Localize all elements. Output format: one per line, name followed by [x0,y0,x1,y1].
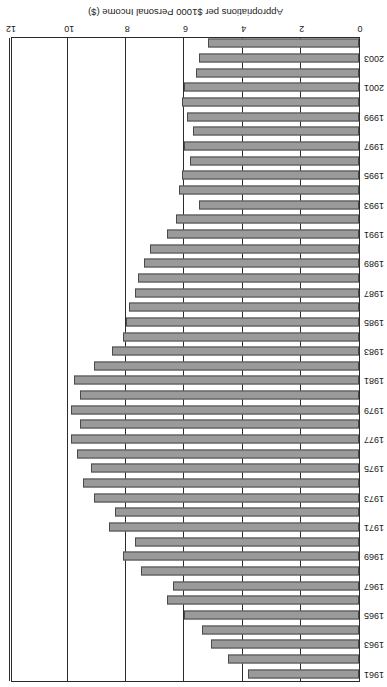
rotated-figure-container: 1961196319651967196919711973197519771979… [0,0,387,687]
bar-row [12,549,359,564]
bar-row [12,36,359,51]
bar-row [12,256,359,271]
bar-row [12,608,359,623]
category-tick-label-1989: 1989 [364,259,384,269]
bar-row [12,432,359,447]
category-tick-label-1987: 1987 [364,289,384,299]
bar-row [12,402,359,417]
bar-1977 [71,435,359,444]
category-tick-label-2003: 2003 [364,54,384,64]
bar-row [12,51,359,66]
bar-1962 [228,655,359,664]
bars-layer [12,38,359,681]
bar-row [12,505,359,520]
bar-row [12,652,359,667]
bar-row [12,593,359,608]
category-tick-label-1961: 1961 [364,670,384,680]
value-axis-title: Appropriations per $1000 Personal Income… [11,6,360,19]
bar-1989 [144,259,359,268]
bar-row [12,388,359,403]
bar-row [12,359,359,374]
bar-1965 [185,611,360,620]
bar-1968 [141,567,359,576]
bar-row [12,344,359,359]
bar-1973 [94,493,359,502]
bar-1966 [167,596,359,605]
category-tick-label-1967: 1967 [364,582,384,592]
bar-row [12,139,359,154]
category-tick-label-1975: 1975 [364,464,384,474]
bar-1995 [182,171,359,180]
gridline-12 [9,38,10,681]
bar-row [12,95,359,110]
value-tick-label-8: 8 [125,23,130,35]
category-tick-label-1965: 1965 [364,611,384,621]
category-tick-label-1995: 1995 [364,171,384,181]
bar-1994 [179,185,359,194]
bar-row [12,534,359,549]
category-tick-label-1993: 1993 [364,201,384,211]
bar-1963 [211,640,359,649]
bar-1983 [112,347,359,356]
value-tick-label-6: 6 [183,23,188,35]
bar-1984 [123,332,359,341]
category-tick-label-1971: 1971 [364,523,384,533]
bar-1999 [187,112,359,121]
bar-1978 [80,420,359,429]
bar-row [12,183,359,198]
bar-row [12,373,359,388]
category-tick-label-1979: 1979 [364,406,384,416]
category-axis-labels: 1961196319651967196919711973197519771979… [362,37,387,682]
bar-2004 [208,39,359,48]
bar-row [12,564,359,579]
bar-row [12,300,359,315]
value-axis-tick-labels: 024681012 [11,19,360,35]
category-tick-label-1969: 1969 [364,552,384,562]
bar-1961 [248,669,359,678]
value-tick-label-0: 0 [357,23,362,35]
bar-1992 [176,215,359,224]
bar-1985 [126,317,359,326]
category-tick-label-1999: 1999 [364,113,384,123]
bar-row [12,197,359,212]
bar-1964 [202,625,359,634]
bar-1979 [71,405,359,414]
bar-row [12,80,359,95]
bar-1970 [135,537,359,546]
bar-1997 [185,141,360,150]
bar-2001 [185,83,360,92]
bar-1993 [199,200,359,209]
value-tick-label-10: 10 [64,23,74,35]
bar-row [12,271,359,286]
bar-row [12,461,359,476]
bar-1986 [129,303,359,312]
bar-1990 [150,244,359,253]
bar-1980 [80,391,359,400]
bar-row [12,446,359,461]
bar-1975 [91,464,359,473]
bar-row [12,285,359,300]
bar-row [12,153,359,168]
value-tick-label-2: 2 [299,23,304,35]
bar-row [12,168,359,183]
bar-2002 [196,68,359,77]
value-tick-label-4: 4 [241,23,246,35]
bar-row [12,227,359,242]
bar-chart-figure: 1961196319651967196919711973197519771979… [0,0,387,687]
plot-area [11,37,360,682]
category-tick-label-1977: 1977 [364,435,384,445]
bar-2000 [182,97,359,106]
bar-row [12,520,359,535]
bar-1981 [74,376,359,385]
bar-row [12,315,359,330]
bar-row [12,109,359,124]
bar-row [12,476,359,491]
category-tick-label-1983: 1983 [364,347,384,357]
category-tick-label-1991: 1991 [364,230,384,240]
bar-2003 [199,54,359,63]
bar-1996 [190,156,359,165]
bar-1971 [109,523,359,532]
bar-row [12,329,359,344]
bar-row [12,212,359,227]
bar-row [12,666,359,681]
